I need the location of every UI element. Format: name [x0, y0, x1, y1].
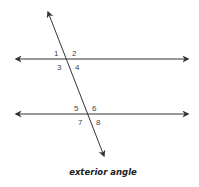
- angle-label-7: 7: [78, 118, 83, 127]
- parallel-lines-transversal-diagram: 1 2 3 4 5 6 7 8 exterior angle: [0, 0, 199, 187]
- angle-label-8: 8: [96, 118, 101, 127]
- angle-label-6: 6: [92, 104, 97, 113]
- diagram-caption: exterior angle: [69, 167, 137, 177]
- angle-label-4: 4: [75, 63, 80, 72]
- angle-label-3: 3: [57, 63, 62, 72]
- angle-label-1: 1: [54, 49, 59, 58]
- angle-label-5: 5: [74, 104, 79, 113]
- angle-label-2: 2: [72, 49, 77, 58]
- transversal-line: [48, 12, 104, 156]
